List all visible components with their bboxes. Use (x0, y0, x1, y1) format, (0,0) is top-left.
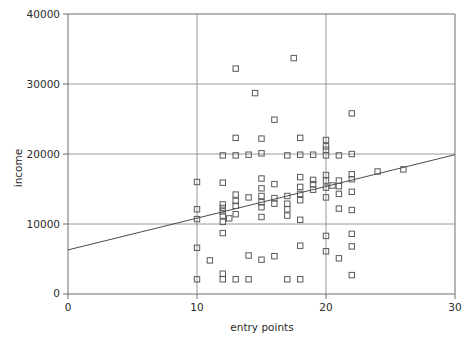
xtick-label-30: 30 (448, 301, 461, 313)
xtick-label-0: 0 (65, 301, 72, 313)
ytick-label-30000: 30000 (27, 78, 60, 90)
scatter-plot-figure: 40000 30000 20000 10000 0 0 10 20 30 ent… (0, 0, 476, 343)
y-axis-title: income (12, 149, 24, 187)
ytick-label-10000: 10000 (27, 218, 60, 230)
x-axis-title: entry points (230, 321, 293, 333)
ytick-label-20000: 20000 (27, 148, 60, 160)
xtick-label-20: 20 (319, 301, 332, 313)
ytick-label-0: 0 (53, 287, 60, 299)
chart-background (0, 0, 476, 343)
ytick-label-40000: 40000 (27, 8, 60, 20)
chart-svg: 40000 30000 20000 10000 0 0 10 20 30 ent… (0, 0, 476, 343)
xtick-label-10: 10 (190, 301, 203, 313)
